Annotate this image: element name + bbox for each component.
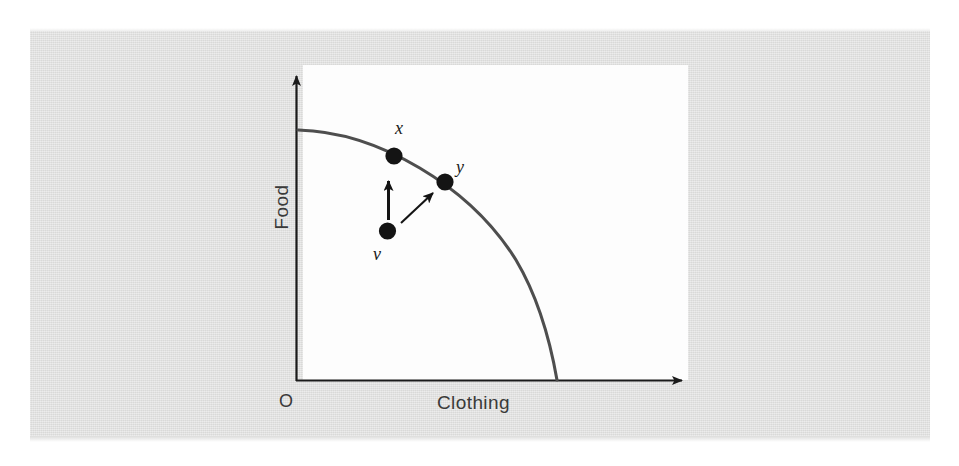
data-point-label-x: x [395, 118, 403, 139]
data-point-y [436, 173, 453, 190]
data-point-x [385, 147, 402, 164]
data-point-label-v: v [373, 244, 381, 265]
data-point-label-y: y [456, 157, 464, 178]
v-to-y-arrow [401, 193, 433, 223]
origin-label: O [279, 391, 293, 412]
data-point-v [379, 222, 396, 239]
production-possibility-frontier-curve [298, 130, 557, 380]
y-axis-label: Food [271, 177, 293, 237]
figure-root: Food Clothing O x y v [0, 0, 959, 466]
x-axis-label: Clothing [437, 392, 510, 414]
